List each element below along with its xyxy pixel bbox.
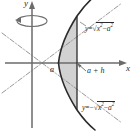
lower-curve-equation: y=−√x2−a2 [82,101,115,111]
upper-eq-exp-a: 2 [111,22,114,28]
y-axis-label: y [24,0,28,8]
figure-canvas [0,0,140,133]
right-bound-label-a-plus-h: a + h [87,67,104,75]
y-axis-arrowhead [29,1,35,9]
x-axis-label: x [126,64,130,73]
vertex-label-a: a [50,66,54,74]
lower-eq-exp-a: 2 [112,101,115,107]
hyperbola-revolution-figure: y x a a + h y=√x2−a2 y=−√x2−a2 [0,0,140,133]
upper-curve-equation: y=√x2−a2 [85,22,114,32]
